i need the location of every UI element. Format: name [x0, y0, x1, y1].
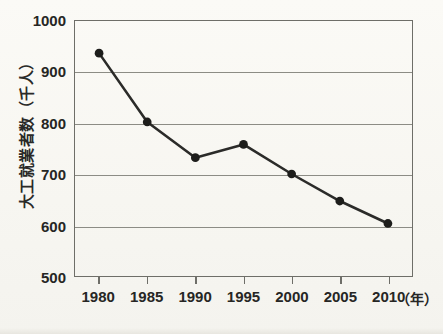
y-axis-tick-labels: 1000900800700600500 — [18, 0, 66, 334]
data-series-layer — [75, 21, 412, 276]
data-point-2005 — [335, 197, 344, 206]
y-axis-tick-600: 600 — [20, 217, 66, 234]
x-axis-tick-mark-1990 — [195, 277, 197, 284]
y-axis-tick-700: 700 — [20, 166, 66, 183]
y-axis-tick-500: 500 — [20, 269, 66, 286]
y-axis-tick-1000: 1000 — [20, 12, 66, 29]
data-point-1990 — [191, 153, 200, 162]
data-point-1985 — [143, 118, 152, 127]
x-axis-unit-label: （年） — [396, 288, 438, 308]
x-axis-tick-mark-2000 — [292, 277, 294, 284]
x-axis-tick-1985: 1985 — [130, 288, 163, 305]
page-edge-smudge — [0, 328, 443, 334]
plot-area — [74, 20, 413, 277]
line-chart-figure: 大工就業者数（千人） 1000900800700600500 198019851… — [0, 0, 443, 334]
y-axis-tick-900: 900 — [20, 63, 66, 80]
x-axis-tick-1980: 1980 — [82, 288, 115, 305]
data-point-2010 — [384, 219, 393, 228]
x-axis-tick-mark-2010 — [389, 277, 391, 284]
data-point-1980 — [95, 49, 104, 58]
data-point-2000 — [287, 170, 296, 179]
x-axis-tick-2005: 2005 — [324, 288, 357, 305]
x-axis-tick-mark-1995 — [244, 277, 246, 284]
x-axis-tick-1990: 1990 — [178, 288, 211, 305]
x-axis-tick-mark-1980 — [98, 277, 100, 284]
data-line — [99, 53, 388, 223]
x-axis-tick-1995: 1995 — [227, 288, 260, 305]
x-axis-tick-mark-1985 — [147, 277, 149, 284]
y-axis-tick-800: 800 — [20, 114, 66, 131]
x-axis-tick-2000: 2000 — [275, 288, 308, 305]
data-point-1995 — [239, 140, 248, 149]
x-axis-tick-mark-2005 — [340, 277, 342, 284]
